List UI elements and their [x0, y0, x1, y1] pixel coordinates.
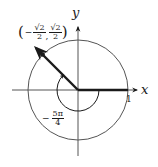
unit-circle-diagram: y x 1 ( − √2 2 , √2 2 ) − 5π 4	[0, 0, 158, 167]
angle-sign: −	[42, 114, 50, 123]
y-coordinate-fraction: √2 2	[49, 24, 61, 42]
close-paren: )	[62, 25, 68, 40]
angle-fraction: 5π 4	[52, 110, 64, 128]
open-paren: (	[18, 25, 24, 40]
x-denominator: 2	[37, 33, 42, 41]
x-sign: −	[25, 28, 33, 37]
angle-label: − 5π 4	[42, 110, 64, 128]
y-axis-label: y	[72, 6, 79, 19]
point-on-circle	[40, 52, 44, 56]
x-axis-label: x	[141, 83, 148, 96]
unit-tick-label: 1	[126, 95, 132, 104]
coordinate-separator: ,	[46, 32, 49, 41]
angle-denominator: 4	[55, 119, 60, 127]
y-denominator: 2	[53, 33, 58, 41]
point-coordinate-label: ( − √2 2 , √2 2 )	[18, 24, 68, 42]
x-coordinate-fraction: √2 2	[33, 24, 45, 42]
